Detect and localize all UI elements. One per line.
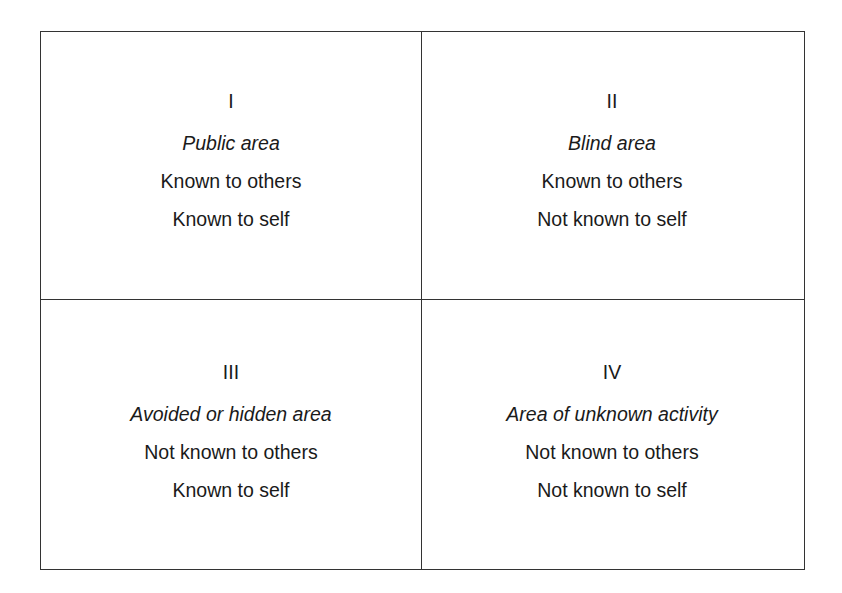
quadrant-numeral: III bbox=[41, 361, 421, 383]
quadrant-others: Not known to others bbox=[422, 441, 802, 463]
quadrant-others: Known to others bbox=[422, 170, 802, 192]
quadrant-self: Not known to self bbox=[422, 208, 802, 230]
quadrant-title: Area of unknown activity bbox=[422, 403, 802, 425]
quadrant-others: Known to others bbox=[41, 170, 421, 192]
quadrant-title: Blind area bbox=[422, 132, 802, 154]
quadrant-numeral: I bbox=[41, 90, 421, 112]
johari-window-grid: I Public area Known to others Known to s… bbox=[40, 31, 805, 570]
quadrant-numeral: IV bbox=[422, 361, 802, 383]
quadrant-self: Known to self bbox=[41, 208, 421, 230]
horizontal-divider bbox=[41, 299, 804, 300]
quadrant-title: Avoided or hidden area bbox=[41, 403, 421, 425]
quadrant-numeral: II bbox=[422, 90, 802, 112]
quadrant-self: Not known to self bbox=[422, 479, 802, 501]
quadrant-self: Known to self bbox=[41, 479, 421, 501]
quadrant-title: Public area bbox=[41, 132, 421, 154]
quadrant-others: Not known to others bbox=[41, 441, 421, 463]
